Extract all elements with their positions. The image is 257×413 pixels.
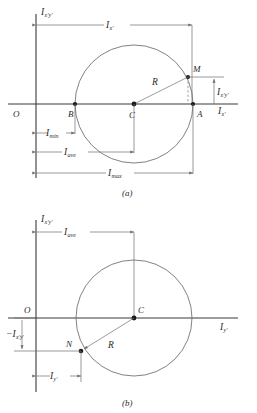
dim-I-y-prime-b: Iy′ bbox=[36, 371, 81, 382]
origin-label-a: O bbox=[13, 109, 20, 119]
caption-b: (b) bbox=[122, 398, 133, 408]
dim-label-I-ave-a: Iave bbox=[63, 147, 76, 158]
point-A-label: A bbox=[196, 109, 203, 119]
dim-neg-I-x-prime-y-prime-b: −Ix′y′ bbox=[6, 320, 25, 349]
caption-a: (a) bbox=[122, 188, 133, 198]
mohrs-circle-figure: Ix′y′ Ix′ Ix′ M Ix′y′ R B bbox=[0, 0, 257, 413]
dim-I-ave-a: Iave bbox=[36, 147, 134, 158]
dim-label-I-y-prime-b: Iy′ bbox=[49, 371, 58, 382]
dim-I-ave-b: Iave bbox=[36, 227, 134, 238]
point-N-label: N bbox=[65, 339, 73, 349]
diagram-a: Ix′y′ Ix′ Ix′ M Ix′y′ R B bbox=[8, 7, 238, 198]
point-M-label: M bbox=[192, 64, 201, 74]
dim-label-I-x-prime-a: Ix′ bbox=[105, 20, 114, 31]
radius-label-a: R bbox=[151, 77, 158, 87]
dim-label-I-min-a: Imin bbox=[45, 128, 59, 139]
point-C-label: C bbox=[129, 110, 136, 120]
horizontal-axis-label-b: Iy′ bbox=[219, 322, 228, 333]
point-B-label: B bbox=[68, 109, 74, 119]
horizontal-axis-label-a: Ix′ bbox=[217, 106, 226, 117]
dim-label-I-x-prime-y-prime-a: Ix′y′ bbox=[216, 87, 229, 98]
vertical-axis-label-a: Ix′y′ bbox=[40, 7, 53, 18]
dim-label-I-ave-b: Iave bbox=[63, 227, 76, 238]
point-C-label-b: C bbox=[138, 305, 145, 315]
vertical-axis-label-b: Ix′y′ bbox=[40, 214, 53, 225]
origin-label-b: O bbox=[24, 305, 31, 315]
dim-I-min-a: Imin bbox=[36, 128, 75, 139]
dim-I-x-prime-y-prime-a: Ix′y′ bbox=[214, 79, 229, 104]
dim-I-x-prime-a: Ix′ bbox=[36, 20, 192, 31]
radius-label-b: R bbox=[107, 340, 114, 350]
dim-label-I-max-a: Imax bbox=[107, 168, 122, 179]
diagram-b: Ix′y′ Iy′ Iave O C N R −Ix′y′ bbox=[6, 214, 238, 408]
radius-line-a bbox=[134, 77, 188, 104]
dim-I-max-a: Imax bbox=[36, 168, 193, 179]
